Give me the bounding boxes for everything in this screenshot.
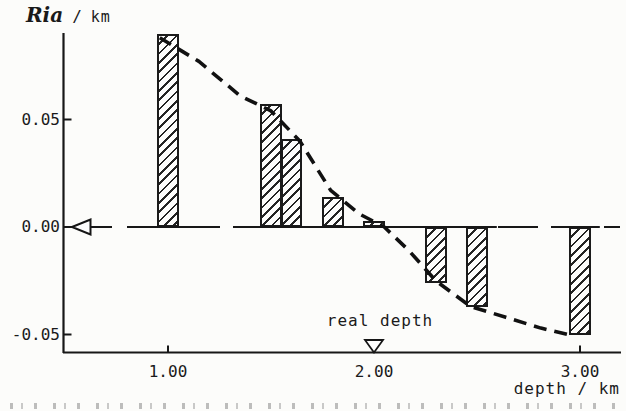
x-tick-label-100: 1.00: [132, 362, 204, 381]
bar: [281, 139, 303, 227]
bar: [569, 227, 591, 335]
y-tick-label-000: 0.00: [6, 217, 60, 236]
real-depth-label: real depth: [318, 311, 442, 330]
scanned-bar-chart-figure: Ria / km 0.05 0.00 -0.05 1.00 2.00 3.00 …: [0, 0, 626, 411]
y-axis-title-unit: km: [91, 8, 111, 26]
bar: [363, 221, 385, 228]
y-tick-label-n005: -0.05: [6, 325, 60, 344]
x-tick-label-200: 2.00: [338, 362, 410, 381]
bar: [157, 34, 179, 228]
y-axis-title-slash: /: [72, 7, 82, 26]
real-depth-marker-icon: [365, 340, 383, 353]
cropped-caption-fragments: [10, 403, 616, 409]
y-tick-label-005: 0.05: [6, 110, 60, 129]
x-axis-title: depth / km: [486, 379, 620, 398]
bar: [425, 227, 447, 283]
y-axis-title: Ria / km: [26, 3, 111, 27]
dashed-trend-curve: [160, 38, 568, 335]
bar: [322, 197, 344, 227]
plot-svg: [0, 0, 626, 411]
bar: [466, 227, 488, 307]
bar: [260, 104, 282, 227]
zero-left-arrow-icon: [72, 220, 91, 235]
y-axis-title-symbol: Ria: [26, 3, 63, 27]
